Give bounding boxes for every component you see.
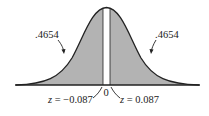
right-arrowhead bbox=[150, 49, 154, 54]
bell-curve bbox=[16, 8, 199, 86]
left-z-arrow bbox=[93, 87, 102, 98]
right-z-label: z = 0.087 bbox=[119, 94, 159, 105]
right-z-arrow bbox=[111, 87, 120, 98]
right-area-label: .4654 bbox=[155, 29, 179, 40]
left-area-label: .4654 bbox=[35, 29, 59, 40]
left-arrowhead bbox=[62, 49, 66, 54]
left-z-label: z = −0.087 bbox=[47, 94, 93, 105]
normal-curve-diagram: .4654 .4654 0 z = −0.087 z = 0.087 bbox=[0, 0, 209, 116]
center-zero-label: 0 bbox=[104, 87, 109, 98]
